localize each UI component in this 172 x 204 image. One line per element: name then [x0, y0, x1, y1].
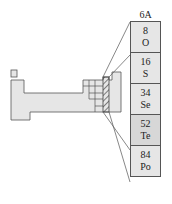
group-6a-hatched-column	[103, 77, 109, 112]
element-cell-selenium: 34 Se	[130, 83, 161, 115]
element-symbol: Te	[131, 130, 160, 142]
periodic-table-group-6a-diagram: 6A 8 O 16 S 34 Se 52 Te 84 Po	[0, 0, 172, 204]
element-symbol: Po	[131, 161, 160, 173]
element-symbol: Se	[131, 99, 160, 111]
group-6a-element-column: 8 O 16 S 34 Se 52 Te 84 Po	[130, 22, 161, 177]
atomic-number: 16	[131, 56, 160, 68]
group-label: 6A	[130, 9, 161, 21]
atomic-number: 84	[131, 149, 160, 161]
element-symbol: O	[131, 37, 160, 49]
element-cell-polonium: 84 Po	[130, 145, 161, 177]
atomic-number: 8	[131, 25, 160, 37]
hydrogen-cell	[11, 70, 17, 77]
atomic-number: 52	[131, 118, 160, 130]
element-cell-oxygen: 8 O	[130, 21, 161, 53]
element-symbol: S	[131, 68, 160, 80]
element-cell-tellurium: 52 Te	[130, 114, 161, 146]
element-cell-sulfur: 16 S	[130, 52, 161, 84]
atomic-number: 34	[131, 87, 160, 99]
